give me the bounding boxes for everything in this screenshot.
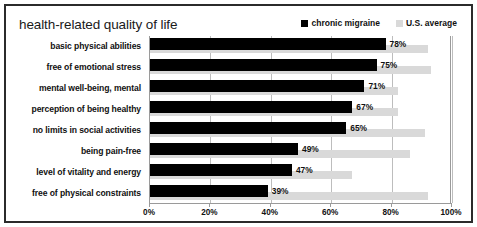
legend-entry-chronic-migraine[interactable]: chronic migraine <box>301 18 380 28</box>
category-label: basic physical abilities <box>13 41 141 51</box>
bar-value-label: 78% <box>390 39 407 49</box>
x-axis-tick-mark <box>209 203 210 207</box>
x-axis-tick-mark <box>149 203 150 207</box>
x-axis-tick-label: 40% <box>262 208 278 217</box>
chart-title: health-related quality of life <box>19 17 177 32</box>
chart-legend: chronic migraine U.S. average <box>301 18 457 28</box>
category-axis: basic physical abilitiesfree of emotiona… <box>17 36 147 203</box>
bar-value-label: 67% <box>356 102 373 112</box>
legend-label-us-average: U.S. average <box>406 18 457 28</box>
bar-chronic-migraine[interactable] <box>150 80 364 92</box>
category-label: no limits in social activities <box>13 125 141 135</box>
gridline <box>452 36 453 203</box>
bar-chronic-migraine[interactable] <box>150 185 268 197</box>
bar-value-label: 71% <box>368 81 385 91</box>
category-label: mental well-being, mental <box>13 83 141 93</box>
x-axis-line <box>149 203 451 204</box>
plot-wrapper: basic physical abilitiesfree of emotiona… <box>17 36 464 221</box>
legend-label-chronic-migraine: chronic migraine <box>311 18 380 28</box>
chart-frame-border: health-related quality of life chronic m… <box>4 4 473 223</box>
bar-value-label: 75% <box>381 60 398 70</box>
bar-chronic-migraine[interactable] <box>150 122 346 134</box>
x-axis-tick-mark <box>330 203 331 207</box>
plot-right-edge <box>450 36 451 203</box>
category-label: free of emotional stress <box>13 62 141 72</box>
plot-area: 78%75%71%67%65%49%47%39% <box>149 36 451 203</box>
bar-value-label: 47% <box>296 165 313 175</box>
x-axis-tick-label: 60% <box>322 208 338 217</box>
x-axis-tick-label: 0% <box>143 208 155 217</box>
x-axis-tick-mark <box>451 203 452 207</box>
legend-swatch-icon-us-average <box>396 20 403 27</box>
bar-value-label: 49% <box>302 144 319 154</box>
bar-chronic-migraine[interactable] <box>150 38 386 50</box>
bar-chronic-migraine[interactable] <box>150 143 298 155</box>
x-axis-tick-mark <box>270 203 271 207</box>
bar-chronic-migraine[interactable] <box>150 59 377 71</box>
x-axis-tick-label: 100% <box>441 208 462 217</box>
bar-chronic-migraine[interactable] <box>150 101 352 113</box>
bar-value-label: 39% <box>272 186 289 196</box>
category-label: being pain-free <box>13 146 141 156</box>
legend-swatch-icon-chronic-migraine <box>301 20 308 27</box>
x-axis-tick-mark <box>391 203 392 207</box>
legend-entry-us-average[interactable]: U.S. average <box>396 18 457 28</box>
x-axis-tick-label: 80% <box>382 208 398 217</box>
bar-chronic-migraine[interactable] <box>150 164 292 176</box>
category-label: free of physical constraints <box>13 188 141 198</box>
category-label: level of vitality and energy <box>13 167 141 177</box>
x-axis-tick-label: 20% <box>201 208 217 217</box>
category-label: perception of being healthy <box>13 104 141 114</box>
chart-container: health-related quality of life chronic m… <box>0 0 477 227</box>
bar-value-label: 65% <box>350 123 367 133</box>
